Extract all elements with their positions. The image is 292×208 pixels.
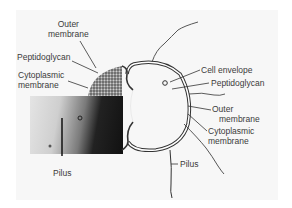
label-line: membrane (18, 80, 64, 90)
pilus-bottom (170, 150, 172, 198)
label-peptidoglycan-left: Peptidoglycan (17, 52, 70, 62)
cell-wall-outer (127, 62, 189, 150)
label-line: Outer (48, 19, 89, 29)
label-cytoplasmic-membrane-left: Cytoplasmic membrane (18, 70, 64, 90)
label-pilus-right: Pilus (180, 159, 198, 169)
label-outer-membrane-right: Outer membrane (212, 104, 260, 124)
label-line: Cytoplasmic (208, 126, 254, 136)
label-line: membrane (208, 136, 254, 146)
label-peptidoglycan-right: Peptidoglycan (211, 78, 264, 88)
label-line: membrane (212, 114, 260, 124)
label-line: membrane (48, 29, 89, 39)
label-pilus-left: Pilus (53, 168, 71, 178)
label-line: Outer (212, 104, 260, 114)
label-cytoplasmic-membrane-right: Cytoplasmic membrane (208, 126, 254, 146)
label-cell-envelope: Cell envelope (201, 65, 253, 75)
label-outer-membrane-left: Outer membrane (48, 19, 89, 39)
label-line: Cytoplasmic (18, 70, 64, 80)
pilus-top (152, 22, 198, 62)
